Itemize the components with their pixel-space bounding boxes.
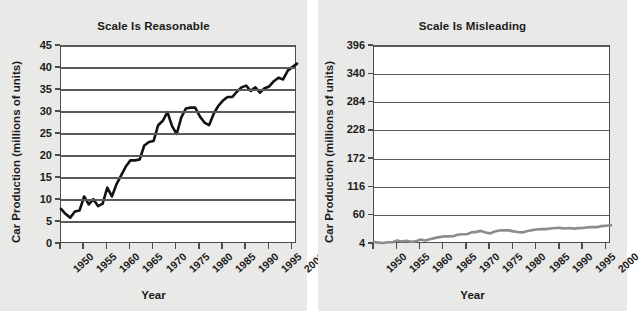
y-tick-mark [368,157,373,158]
x-tick-label: 1950 [384,251,408,274]
x-tick-label: 2000 [616,251,640,274]
y-tick-label: 396 [329,40,365,51]
y-tick-label: 0 [16,238,52,249]
y-tick-mark [368,214,373,215]
y-tick-label: 340 [329,68,365,79]
y-tick-label: 35 [16,84,52,95]
x-tick-mark [198,243,199,249]
y-tick-label: 20 [16,150,52,161]
x-tick-mark [488,243,489,249]
x-tick-mark [605,243,606,249]
y-tick-mark [368,101,373,102]
y-tick-mark [55,220,60,221]
x-tick-mark [291,243,292,249]
gridline [61,155,295,156]
y-tick-mark [368,129,373,130]
x-tick-mark [396,243,397,249]
x-tick-label: 1995 [279,251,303,274]
gridline [374,45,609,46]
x-axis-title-misleading: Year [318,289,627,301]
x-tick-mark [268,243,269,249]
x-tick-label: 1990 [256,251,280,274]
gridline [61,45,295,46]
x-tick-label: 1950 [71,251,95,274]
x-tick-label: 1970 [477,251,501,274]
gridline [61,177,295,178]
y-tick-mark [55,198,60,199]
y-tick-mark [368,73,373,74]
x-tick-mark [465,243,466,249]
gridline [374,102,609,103]
x-tick-mark [129,243,130,249]
x-tick-label: 1955 [407,251,431,274]
chart-title-reasonable: Scale Is Reasonable [0,20,307,32]
series-line-reasonable [61,46,297,244]
x-tick-mark [106,243,107,249]
y-tick-mark [55,44,60,45]
gridline [374,74,609,75]
x-tick-mark [419,243,420,249]
data-series-path [61,64,297,218]
x-tick-label: 1960 [117,251,141,274]
x-tick-mark [558,243,559,249]
x-tick-mark [59,243,60,249]
y-tick-mark [368,44,373,45]
x-tick-label: 1985 [547,251,571,274]
x-tick-label: 1955 [94,251,118,274]
x-tick-mark [512,243,513,249]
data-series-path [374,225,611,243]
x-tick-label: 1995 [593,251,617,274]
x-tick-label: 1965 [454,251,478,274]
y-tick-label: 228 [329,124,365,135]
y-tick-label: 30 [16,106,52,117]
y-tick-mark [55,110,60,111]
x-tick-mark [442,243,443,249]
chart-panel-misleading: Scale Is Misleading Car Production (mill… [318,0,627,311]
gridline [61,111,295,112]
y-tick-label: 4 [329,238,365,249]
y-tick-label: 116 [329,181,365,192]
x-tick-mark [535,243,536,249]
x-tick-mark [221,243,222,249]
y-tick-label: 40 [16,62,52,73]
x-tick-mark [244,243,245,249]
y-tick-mark [55,176,60,177]
y-tick-label: 172 [329,153,365,164]
y-tick-mark [55,154,60,155]
y-tick-label: 284 [329,96,365,107]
x-tick-mark [82,243,83,249]
x-tick-label: 1975 [187,251,211,274]
x-axis-title-reasonable: Year [0,289,307,301]
gridline [374,215,609,216]
y-tick-label: 15 [16,172,52,183]
y-tick-label: 10 [16,194,52,205]
x-tick-label: 1980 [523,251,547,274]
y-tick-label: 5 [16,216,52,227]
plot-area-reasonable [60,45,296,243]
gridline [61,67,295,68]
chart-title-misleading: Scale Is Misleading [318,20,627,32]
x-tick-label: 1960 [430,251,454,274]
x-tick-mark [581,243,582,249]
x-tick-mark [175,243,176,249]
y-tick-mark [55,88,60,89]
x-tick-label: 1975 [500,251,524,274]
gridline [61,199,295,200]
gridline [374,187,609,188]
chart-panel-reasonable: Scale Is Reasonable Car Production (mill… [0,0,307,311]
x-tick-label: 1985 [233,251,257,274]
gridline [61,89,295,90]
x-tick-label: 1990 [570,251,594,274]
gridline [374,130,609,131]
y-tick-label: 45 [16,40,52,51]
x-tick-label: 1980 [210,251,234,274]
x-tick-mark [152,243,153,249]
y-tick-label: 60 [329,209,365,220]
y-tick-mark [368,186,373,187]
gridline [374,159,609,160]
x-tick-label: 1970 [164,251,188,274]
gridline [61,221,295,222]
x-tick-mark [372,243,373,249]
y-tick-mark [55,66,60,67]
